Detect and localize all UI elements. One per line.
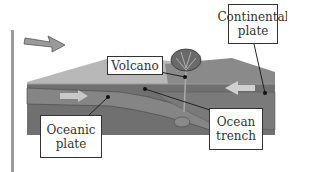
continental-plate-label: Continental plate xyxy=(228,4,278,44)
magma-chamber-icon xyxy=(174,117,190,127)
volcano-icon xyxy=(171,49,201,71)
oceanic-plate-label: Oceanic plate xyxy=(40,115,102,158)
incoming-arrow-icon xyxy=(24,36,65,52)
ocean-trench-label: Ocean trench xyxy=(209,108,263,150)
volcano-label: Volcano xyxy=(107,56,163,75)
